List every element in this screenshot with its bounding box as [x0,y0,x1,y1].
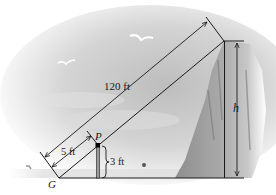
diagram-canvas: 120 ft 5 ft 3 ft P G h [0,0,276,195]
hypotenuse-label: 120 ft [104,80,130,92]
post [97,145,100,178]
swimmer-icon [26,166,31,169]
point-g-label: G [48,178,56,190]
swimmer-icon [142,163,146,167]
point-p-label: P [94,130,102,142]
post-height-label: 3 ft [110,156,124,167]
point-p-marker [96,143,101,148]
short-distance-label: 5 ft [61,146,75,157]
height-label: h [233,101,239,115]
